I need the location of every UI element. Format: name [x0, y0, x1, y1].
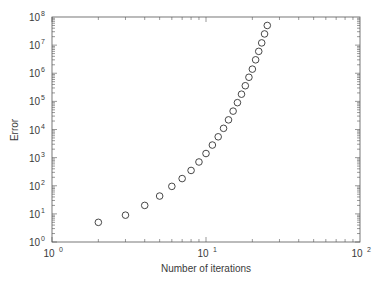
svg-text:5: 5 [41, 94, 45, 101]
y-tick-label: 104 [29, 123, 45, 136]
data-point [255, 48, 262, 55]
x-tick-label: 101 [197, 246, 217, 259]
svg-text:1: 1 [213, 246, 217, 253]
data-points [95, 22, 271, 225]
data-point [249, 66, 256, 73]
data-point [196, 159, 203, 166]
svg-text:10: 10 [29, 209, 41, 220]
svg-text:3: 3 [41, 151, 45, 158]
data-point [203, 150, 210, 157]
x-axis-label: Number of iterations [161, 263, 251, 274]
data-point [238, 91, 245, 98]
data-point [242, 82, 249, 89]
data-point [215, 134, 222, 141]
x-axis-ticks: 100101102 [43, 17, 371, 259]
svg-text:10: 10 [29, 237, 41, 248]
svg-text:4: 4 [41, 123, 45, 130]
svg-text:10: 10 [29, 68, 41, 79]
y-tick-label: 102 [29, 179, 45, 192]
data-point [261, 31, 268, 38]
x-tick-label: 102 [351, 246, 371, 259]
data-point [234, 99, 241, 106]
svg-text:10: 10 [29, 153, 41, 164]
y-tick-label: 105 [29, 94, 45, 107]
svg-text:8: 8 [41, 10, 45, 17]
svg-text:7: 7 [41, 38, 45, 45]
error-vs-iterations-chart: 100101102 100101102103104105106107108 Nu… [0, 0, 387, 287]
svg-text:10: 10 [197, 248, 209, 259]
svg-text:10: 10 [29, 40, 41, 51]
data-point [179, 175, 186, 182]
y-tick-label: 107 [29, 38, 45, 51]
y-tick-label: 108 [29, 10, 45, 23]
data-point [225, 117, 232, 124]
y-axis-label: Error [9, 118, 20, 141]
data-point [246, 74, 253, 81]
svg-text:2: 2 [41, 179, 45, 186]
svg-text:10: 10 [351, 248, 363, 259]
y-tick-label: 103 [29, 151, 45, 164]
data-point [220, 125, 227, 132]
data-point [156, 193, 163, 200]
y-axis-ticks: 100101102103104105106107108 [29, 10, 360, 248]
data-point [188, 167, 195, 174]
y-tick-label: 100 [29, 235, 45, 248]
svg-text:2: 2 [367, 246, 371, 253]
svg-text:6: 6 [41, 66, 45, 73]
data-point [264, 22, 271, 29]
data-point [230, 108, 237, 115]
y-tick-label: 106 [29, 66, 45, 79]
svg-text:0: 0 [41, 235, 45, 242]
svg-text:10: 10 [43, 248, 55, 259]
svg-text:10: 10 [29, 181, 41, 192]
x-tick-label: 100 [43, 246, 63, 259]
svg-text:10: 10 [29, 96, 41, 107]
svg-text:1: 1 [41, 207, 45, 214]
svg-text:0: 0 [59, 246, 63, 253]
data-point [95, 219, 102, 226]
data-point [141, 202, 148, 209]
data-point [252, 57, 259, 64]
data-point [258, 40, 265, 47]
svg-text:10: 10 [29, 125, 41, 136]
y-tick-label: 101 [29, 207, 45, 220]
data-point [209, 142, 216, 149]
data-point [122, 212, 129, 219]
svg-text:10: 10 [29, 12, 41, 23]
data-point [169, 183, 176, 190]
plot-frame [52, 17, 360, 242]
